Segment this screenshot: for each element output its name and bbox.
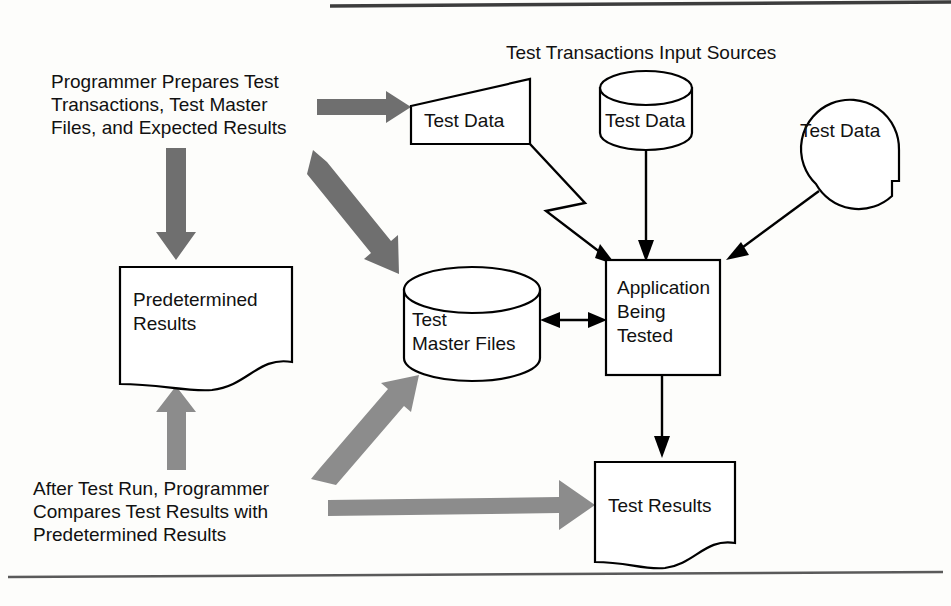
node-application-being-tested[interactable]: Application Being Tested	[606, 260, 720, 375]
connector-disk-to-application	[638, 150, 654, 262]
connector-prepare-to-master-files	[307, 150, 399, 274]
connector-prepare-to-manual	[317, 91, 411, 123]
node-test-data-disk-label: Test Data	[605, 110, 686, 131]
node-test-data-manual-label: Test Data	[424, 110, 505, 131]
node-predetermined-results-label-1: Predetermined	[133, 289, 258, 310]
node-test-data-manual[interactable]: Test Data	[411, 79, 530, 144]
connector-master-files-application	[540, 312, 607, 328]
connector-tape-to-application	[726, 191, 819, 260]
compare-line-1: After Test Run, Programmer	[33, 478, 270, 499]
master-files-cylinder-top-icon	[404, 267, 540, 313]
connector-compare-to-master-files	[311, 375, 419, 485]
diagram-page: Test Transactions Input Sources Programm…	[0, 0, 951, 606]
node-application-label-1: Application	[617, 277, 710, 298]
compare-annotation: After Test Run, Programmer Compares Test…	[33, 478, 270, 545]
connector-compare-to-test-results	[328, 480, 595, 530]
connector-prepare-to-predetermined	[156, 148, 196, 260]
prepare-line-2: Transactions, Test Master	[51, 94, 268, 115]
node-predetermined-results-label-2: Results	[133, 313, 196, 334]
node-test-master-files-label-1: Test	[412, 309, 448, 330]
prepare-line-1: Programmer Prepares Test	[51, 71, 279, 92]
node-test-master-files[interactable]: Test Master Files	[404, 267, 540, 381]
results-connector-arrowhead	[654, 436, 670, 458]
node-test-data-disk[interactable]: Test Data	[600, 71, 692, 150]
page-edge-bottom	[8, 572, 943, 577]
node-test-master-files-label-2: Master Files	[412, 333, 515, 354]
compare-line-2: Compares Test Results with	[33, 501, 268, 522]
connector-application-to-results	[654, 375, 670, 458]
node-test-results[interactable]: Test Results	[595, 462, 735, 568]
disk-connector-arrowhead	[638, 240, 654, 262]
node-test-data-tape-label: Test Data	[800, 120, 881, 141]
compare-line-3: Predetermined Results	[33, 524, 226, 545]
input-sources-heading: Test Transactions Input Sources	[506, 42, 776, 63]
database-cylinder-top-icon	[600, 71, 692, 105]
prepare-annotation: Programmer Prepares Test Transactions, T…	[51, 71, 287, 138]
node-application-label-3: Tested	[617, 325, 673, 346]
zigzag-connector-line	[530, 144, 605, 256]
prepare-line-3: Files, and Expected Results	[51, 117, 287, 138]
connector-manual-to-application	[530, 144, 616, 265]
tape-connector-line	[739, 191, 819, 250]
connector-compare-to-predetermined	[156, 386, 196, 470]
node-predetermined-results[interactable]: Predetermined Results	[120, 267, 292, 390]
double-arrow-head-right	[588, 312, 607, 328]
node-test-results-label: Test Results	[608, 495, 711, 516]
flowchart-canvas: Test Transactions Input Sources Programm…	[0, 0, 951, 606]
node-application-label-2: Being	[617, 301, 666, 322]
page-edge-top	[330, 2, 951, 6]
double-arrow-head-left	[540, 312, 560, 328]
